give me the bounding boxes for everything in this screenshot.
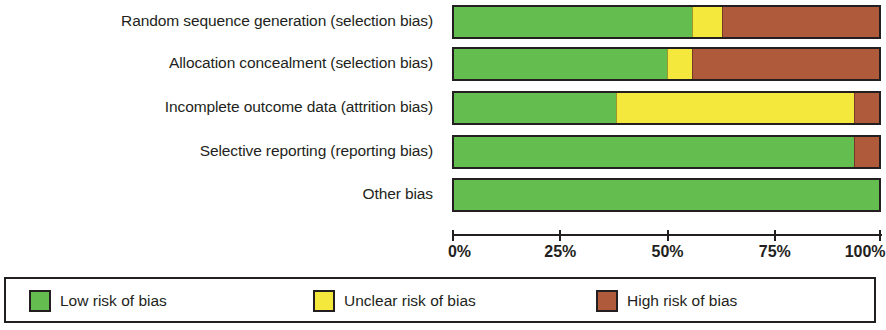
low-risk-segment <box>454 137 854 167</box>
low-risk-segment <box>454 7 692 37</box>
unclear-risk-segment <box>616 93 854 123</box>
low-risk-segment <box>454 180 879 210</box>
category-label: Random sequence generation (selection bi… <box>121 12 433 30</box>
legend-item: High risk of bias <box>596 288 737 314</box>
legend-label: High risk of bias <box>627 292 737 310</box>
legend-swatch-icon <box>29 290 51 312</box>
low-risk-segment <box>454 49 667 79</box>
high-risk-segment <box>722 7 879 37</box>
category-label-column: Random sequence generation (selection bi… <box>0 0 443 222</box>
bar-row <box>452 47 881 81</box>
stacked-bar-plot-area <box>452 0 881 222</box>
legend-swatch-icon <box>313 290 335 312</box>
axis-tick <box>559 230 561 241</box>
unclear-risk-segment <box>667 49 693 79</box>
legend-item: Low risk of bias <box>29 288 167 314</box>
category-label: Allocation concealment (selection bias) <box>169 54 433 72</box>
bar-row <box>452 178 881 212</box>
axis-tick-label: 100% <box>845 243 886 261</box>
low-risk-segment <box>454 93 616 123</box>
category-label: Other bias <box>362 185 433 203</box>
axis-tick-label: 25% <box>544 243 576 261</box>
bar-row <box>452 135 881 169</box>
axis-tick-label: 0% <box>448 243 471 261</box>
legend-item: Unclear risk of bias <box>313 288 476 314</box>
legend-swatch-icon <box>596 290 618 312</box>
category-label: Selective reporting (reporting bias) <box>200 142 433 160</box>
high-risk-segment <box>854 93 880 123</box>
bar-row <box>452 5 881 39</box>
unclear-risk-segment <box>692 7 722 37</box>
high-risk-segment <box>854 137 880 167</box>
axis-tick-label: 50% <box>651 243 683 261</box>
legend-label: Low risk of bias <box>60 292 167 310</box>
legend: Low risk of biasUnclear risk of biasHigh… <box>4 277 876 323</box>
axis-tick <box>879 230 881 241</box>
x-axis: 0%25%50%75%100% <box>452 230 882 270</box>
category-label: Incomplete outcome data (attrition bias) <box>165 98 433 116</box>
high-risk-segment <box>692 49 879 79</box>
bar-row <box>452 91 881 125</box>
axis-tick <box>667 230 669 241</box>
axis-tick <box>774 230 776 241</box>
legend-label: Unclear risk of bias <box>344 292 476 310</box>
axis-tick-label: 75% <box>759 243 791 261</box>
axis-tick <box>452 230 454 241</box>
